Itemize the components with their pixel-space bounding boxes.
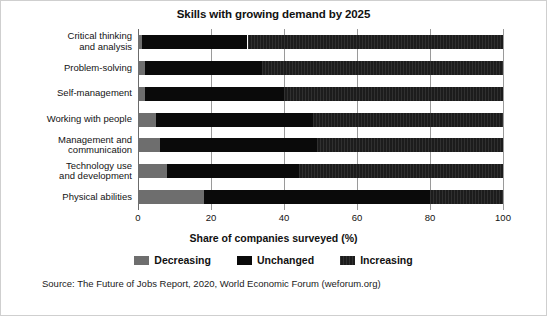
legend-item-unchanged[interactable]: Unchanged (237, 254, 314, 266)
chart-figure: Skills with growing demand by 2025 Criti… (0, 0, 547, 316)
bar-segment-unchanged (142, 35, 248, 49)
category-label: Technology use and development (0, 161, 132, 182)
bar-segment-unchanged (160, 138, 317, 152)
x-axis-tick-labels: 020406080100 (138, 212, 503, 226)
bar-segment-unchanged (204, 190, 430, 204)
bar-segment-increasing (317, 138, 503, 152)
legend-label: Decreasing (154, 254, 211, 266)
legend-label: Increasing (360, 254, 413, 266)
bar-row (138, 164, 503, 178)
y-axis-category-labels: Critical thinking and analysisProblem-so… (0, 29, 132, 210)
bar-segment-unchanged (156, 113, 313, 127)
bar-segment-decreasing (138, 61, 145, 75)
legend-label: Unchanged (257, 254, 314, 266)
bar-segment-increasing (299, 164, 503, 178)
category-label: Physical abilities (0, 192, 132, 203)
category-label: Problem-solving (0, 63, 132, 74)
plot-area (138, 29, 503, 210)
bar-segment-increasing (248, 35, 504, 49)
legend-swatch-icon (340, 256, 355, 265)
bar-segment-decreasing (138, 87, 145, 101)
bar-segment-increasing (284, 87, 503, 101)
x-tick-label: 0 (135, 212, 140, 223)
bar-segment-increasing (262, 61, 503, 75)
category-label: Management and communication (0, 135, 132, 156)
chart-title: Skills with growing demand by 2025 (0, 8, 547, 20)
bar-segment-decreasing (138, 113, 156, 127)
bar-segment-unchanged (145, 87, 284, 101)
bar-segment-decreasing (138, 138, 160, 152)
source-note: Source: The Future of Jobs Report, 2020,… (42, 278, 381, 289)
bar-segment-increasing (430, 190, 503, 204)
bar-segment-decreasing (138, 190, 204, 204)
bar-segment-decreasing (138, 164, 167, 178)
category-label: Self-management (0, 88, 132, 99)
legend-swatch-icon (134, 256, 149, 265)
category-label: Critical thinking and analysis (0, 31, 132, 52)
bar-row (138, 190, 503, 204)
bar-row (138, 35, 503, 49)
bar-segment-unchanged (167, 164, 298, 178)
x-tick-label: 80 (425, 212, 436, 223)
x-tick-label: 60 (352, 212, 363, 223)
x-tick-label: 40 (279, 212, 290, 223)
bar-row (138, 113, 503, 127)
bar-segment-increasing (313, 113, 503, 127)
bar-row (138, 61, 503, 75)
x-tick-label: 100 (495, 212, 511, 223)
bar-segment-unchanged (145, 61, 262, 75)
category-label: Working with people (0, 114, 132, 125)
x-axis-title: Share of companies surveyed (%) (0, 232, 547, 244)
x-tick-label: 20 (206, 212, 217, 223)
stacked-bars (138, 29, 503, 210)
legend-item-increasing[interactable]: Increasing (340, 254, 413, 266)
chart-legend: DecreasingUnchangedIncreasing (0, 254, 547, 266)
bar-row (138, 138, 503, 152)
bar-row (138, 87, 503, 101)
gridline-100 (503, 29, 504, 210)
legend-swatch-icon (237, 256, 252, 265)
figure-border-top (0, 0, 547, 1)
legend-item-decreasing[interactable]: Decreasing (134, 254, 211, 266)
